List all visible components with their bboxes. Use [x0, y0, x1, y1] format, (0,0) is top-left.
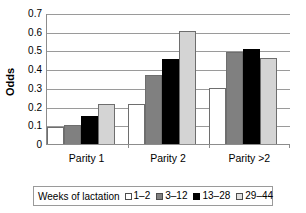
legend-title: Weeks of lactation [38, 191, 120, 202]
y-axis-tick-label: 0.4 [28, 65, 42, 75]
y-axis-tick-label: 0.6 [28, 28, 42, 38]
x-axis-tick [289, 144, 290, 148]
legend-entry[interactable]: 1–2 [125, 191, 151, 201]
y-axis-title: Odds [2, 52, 18, 112]
bar[interactable] [81, 116, 98, 144]
x-axis-tick [209, 144, 210, 148]
bar[interactable] [128, 104, 145, 144]
x-axis-category-labels: Parity 1Parity 2Parity >2 [46, 150, 290, 166]
bar-series-layer [47, 14, 290, 144]
bar[interactable] [179, 31, 196, 144]
y-axis-tick-label: 0.7 [28, 9, 42, 19]
chart-legend: Weeks of lactation 1–23–1213–2829–44 [33, 186, 273, 206]
bar-group [209, 14, 290, 144]
bar[interactable] [64, 125, 81, 144]
bar-group [128, 14, 209, 144]
bar[interactable] [226, 52, 243, 144]
legend-swatch [236, 193, 243, 200]
bar[interactable] [260, 58, 277, 144]
legend-label: 29–44 [245, 191, 273, 201]
y-axis-tick-label: 0 [36, 140, 42, 150]
y-axis-tick-label: 0.3 [28, 84, 42, 94]
legend-swatch [125, 193, 132, 200]
x-axis-category-label: Parity >2 [209, 150, 290, 166]
y-axis-tick-labels: 00.10.20.30.40.50.60.7 [18, 14, 44, 145]
y-axis-title-text: Odds [4, 68, 16, 96]
y-axis-tick-label: 0.2 [28, 103, 42, 113]
x-axis-category-label: Parity 2 [127, 150, 208, 166]
bar-group [47, 14, 128, 144]
legend-swatch [156, 193, 163, 200]
y-axis-tick-label: 0.5 [28, 46, 42, 56]
bar-chart-figure: Odds 00.10.20.30.40.50.60.7 Parity 1Pari… [0, 0, 306, 213]
bar[interactable] [145, 75, 162, 144]
bar[interactable] [47, 127, 64, 144]
legend-entry[interactable]: 3–12 [156, 191, 187, 201]
legend-entry[interactable]: 29–44 [236, 191, 273, 201]
x-axis-category-label: Parity 1 [46, 150, 127, 166]
bar[interactable] [209, 88, 226, 144]
legend-entries: 1–23–1213–2829–44 [125, 191, 280, 201]
bar[interactable] [98, 104, 115, 144]
x-axis-tick [128, 144, 129, 148]
bar[interactable] [243, 49, 260, 144]
legend-entry[interactable]: 13–28 [193, 191, 230, 201]
bar[interactable] [162, 59, 179, 144]
legend-swatch [193, 193, 200, 200]
plot-area [46, 14, 290, 145]
y-axis-tick-label: 0.1 [28, 121, 42, 131]
legend-label: 3–12 [165, 191, 187, 201]
legend-label: 1–2 [134, 191, 151, 201]
legend-label: 13–28 [202, 191, 230, 201]
